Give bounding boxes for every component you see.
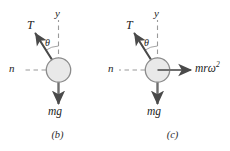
figure-root: T y n θ mg (b) — [0, 0, 230, 151]
panel-b: T y n θ mg (b) — [0, 0, 115, 151]
centrifugal-force-label: mrω2 — [195, 63, 220, 75]
weight-label: mg — [147, 106, 161, 118]
weight-label: mg — [48, 106, 62, 118]
panel-b-caption: (b) — [0, 129, 115, 140]
n-axis-label: n — [108, 63, 114, 74]
panel-c-caption: (c) — [115, 129, 230, 140]
particle-ball — [46, 58, 70, 82]
tension-label: T — [126, 19, 133, 31]
centrifugal-force-exponent: 2 — [216, 60, 220, 69]
n-axis-label: n — [9, 63, 15, 74]
angle-theta-label: θ — [144, 38, 149, 48]
y-axis-label: y — [154, 8, 159, 19]
tension-label: T — [27, 19, 34, 31]
centrifugal-force-base: mrω — [195, 62, 216, 74]
angle-theta-label: θ — [45, 38, 50, 48]
y-axis-label: y — [55, 8, 60, 19]
panel-c: T y n θ mg mrω2 (c) — [115, 0, 230, 151]
